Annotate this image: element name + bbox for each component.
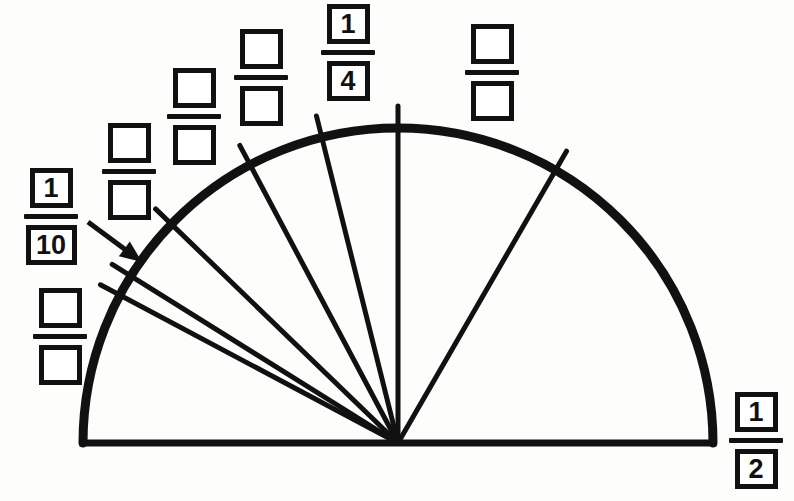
fraction-numerator-box[interactable]: 1 <box>735 392 778 432</box>
fraction-denominator-box[interactable] <box>39 345 82 385</box>
radius-half <box>398 151 567 443</box>
fraction-bar <box>465 70 519 75</box>
fraction-frac-blank-left-lower[interactable] <box>33 288 87 385</box>
fraction-denominator-box[interactable]: 2 <box>735 449 778 489</box>
fraction-frac-1-2[interactable]: 12 <box>729 392 783 489</box>
fraction-denominator-box[interactable] <box>471 81 514 121</box>
worksheet-page: 1101412 <box>0 0 794 501</box>
fraction-frac-blank-b[interactable] <box>167 68 221 165</box>
fraction-numerator-box[interactable] <box>240 29 283 69</box>
semicircle-figure <box>0 0 794 501</box>
fraction-frac-1-4[interactable]: 14 <box>321 4 375 101</box>
fraction-numerator-box[interactable]: 1 <box>327 4 370 44</box>
radius-1-10-lower <box>112 264 398 443</box>
fraction-bar <box>24 214 78 219</box>
fraction-denominator-box[interactable] <box>240 86 283 126</box>
fraction-bar <box>729 438 783 443</box>
radius-third <box>156 209 398 443</box>
fraction-numerator-box[interactable] <box>108 123 151 163</box>
fraction-numerator-box[interactable] <box>39 288 82 328</box>
fraction-denominator-box[interactable] <box>173 125 216 165</box>
fraction-bar <box>321 50 375 55</box>
fraction-denominator-box[interactable]: 10 <box>26 225 77 265</box>
fraction-bar <box>33 334 87 339</box>
fraction-bar <box>102 169 156 174</box>
callout-arrow <box>88 222 142 262</box>
fraction-frac-blank-a[interactable] <box>102 123 156 220</box>
fraction-frac-blank-d[interactable] <box>465 24 519 121</box>
fraction-numerator-box[interactable] <box>173 68 216 108</box>
fraction-numerator-box[interactable] <box>471 24 514 64</box>
fraction-frac-1-10[interactable]: 110 <box>24 168 78 265</box>
fraction-denominator-box[interactable] <box>108 180 151 220</box>
radius-fifth <box>316 116 398 443</box>
fraction-denominator-box[interactable]: 4 <box>327 61 370 101</box>
fraction-bar <box>167 114 221 119</box>
fraction-numerator-box[interactable]: 1 <box>30 168 73 208</box>
fraction-frac-blank-c[interactable] <box>234 29 288 126</box>
fraction-bar <box>234 75 288 80</box>
